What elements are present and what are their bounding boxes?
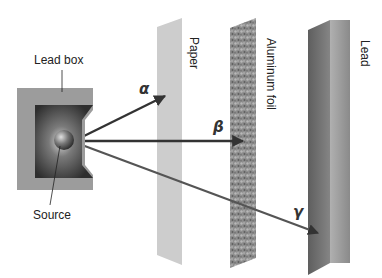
source-label: Source bbox=[33, 208, 71, 222]
gamma-symbol: γ bbox=[293, 203, 303, 221]
radiation-diagram: Lead box Source Paper Aluminum foil Lead… bbox=[0, 0, 382, 278]
paper-label: Paper bbox=[187, 37, 201, 69]
alpha-ray bbox=[82, 96, 165, 137]
lead-shield bbox=[308, 20, 350, 275]
radiation-source bbox=[54, 130, 74, 150]
aluminum-foil-label: Aluminum foil bbox=[264, 38, 278, 110]
gamma-ray bbox=[82, 145, 318, 233]
lead-box-label: Lead box bbox=[34, 53, 83, 67]
beta-symbol: β bbox=[213, 118, 224, 136]
alpha-symbol: α bbox=[139, 80, 149, 98]
aluminum-foil-sheet bbox=[230, 18, 256, 268]
lead-label: Lead bbox=[358, 40, 372, 67]
